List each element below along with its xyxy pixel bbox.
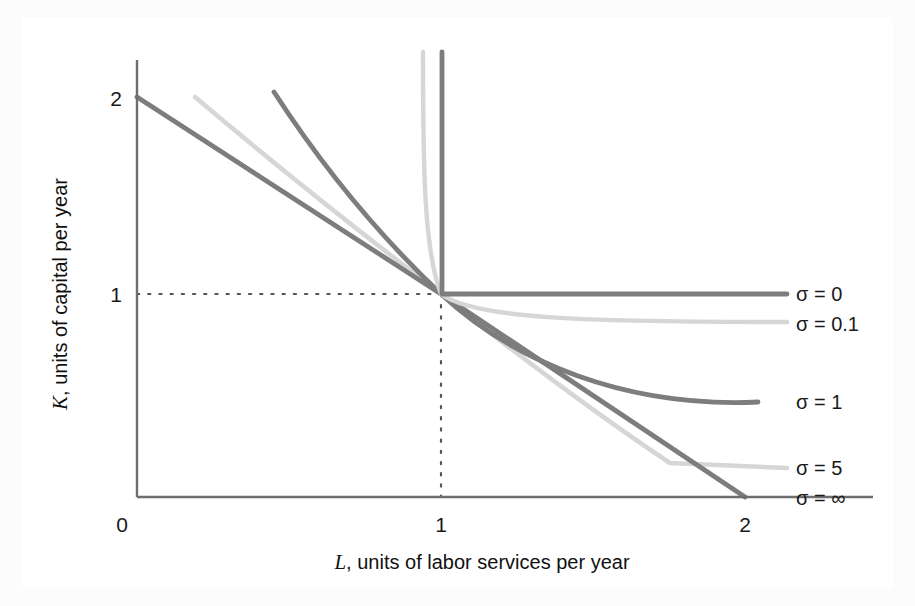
series-label-sigma-1: σ = 1 bbox=[796, 391, 842, 413]
plot-card: 2 1 0 1 2 L, units of labor services per… bbox=[22, 18, 893, 588]
series-curve-sigma-0 bbox=[442, 52, 787, 294]
series-curve-sigma-0.1 bbox=[423, 52, 787, 322]
y-tick-label-1: 1 bbox=[110, 283, 122, 306]
y-tick-label-2: 2 bbox=[110, 87, 122, 110]
y-axis-title-text: , units of capital per year bbox=[49, 178, 71, 396]
x-axis-title-variable: L bbox=[333, 550, 346, 574]
figure-frame: 2 1 0 1 2 L, units of labor services per… bbox=[0, 0, 915, 606]
series-label-sigma-0.1: σ = 0.1 bbox=[796, 313, 859, 335]
series-label-sigma-0: σ = 0 bbox=[796, 283, 842, 305]
series-label-sigma-5: σ = 5 bbox=[796, 457, 842, 479]
x-axis-title-text: , units of labor services per year bbox=[346, 551, 630, 573]
axes bbox=[137, 60, 873, 497]
series-curve-sigma-5 bbox=[195, 97, 787, 468]
y-axis-title: K, units of capital per year bbox=[48, 178, 72, 411]
x-axis-title: L, units of labor services per year bbox=[333, 550, 629, 574]
series-labels: σ = 0 σ = 0.1 σ = 1 σ = 5 σ = ∞ bbox=[796, 283, 859, 509]
y-axis-title-variable: K bbox=[48, 395, 72, 411]
x-tick-label-2: 2 bbox=[739, 513, 751, 536]
y-axis-tick-labels: 2 1 bbox=[110, 87, 122, 306]
series-label-sigma-infinity: σ = ∞ bbox=[796, 487, 845, 509]
isoquant-chart: 2 1 0 1 2 L, units of labor services per… bbox=[22, 18, 893, 588]
x-axis-tick-labels: 0 1 2 bbox=[116, 513, 751, 536]
x-tick-label-1: 1 bbox=[435, 513, 447, 536]
x-tick-label-0: 0 bbox=[116, 513, 128, 536]
guide-lines bbox=[137, 294, 441, 497]
series-curve-sigma-1 bbox=[274, 92, 758, 403]
